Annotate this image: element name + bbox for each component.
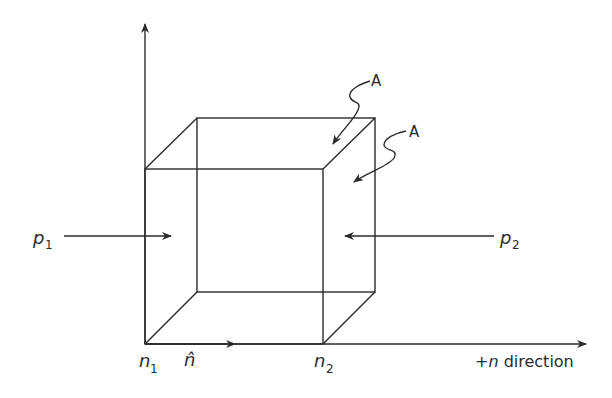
area-side-pointer-arrow bbox=[354, 131, 406, 182]
p1-subscript: 1 bbox=[45, 238, 53, 252]
cube-edge-top-right bbox=[323, 118, 375, 169]
pressure-cube-diagram: p 1 p 2 A A n 1 n̂ n 2 +n direction bbox=[0, 0, 612, 398]
p2-label: p bbox=[499, 227, 511, 248]
p2-subscript: 2 bbox=[512, 238, 520, 252]
p1-label: p bbox=[32, 227, 44, 248]
area-top-pointer-arrow bbox=[333, 81, 370, 144]
n2-label: n bbox=[314, 350, 325, 371]
cube-edge-bottom-right bbox=[323, 292, 375, 344]
area-side-label: A bbox=[409, 123, 420, 141]
n1-label: n bbox=[139, 350, 150, 371]
n-hat-label: n̂ bbox=[184, 349, 195, 370]
axis-direction-label: +n direction bbox=[475, 352, 574, 371]
n2-subscript: 2 bbox=[326, 362, 334, 376]
area-top-label: A bbox=[371, 72, 382, 90]
n1-subscript: 1 bbox=[150, 362, 158, 376]
cube-edge-bottom-left bbox=[145, 292, 197, 344]
cube-edge-top-left bbox=[145, 118, 197, 169]
